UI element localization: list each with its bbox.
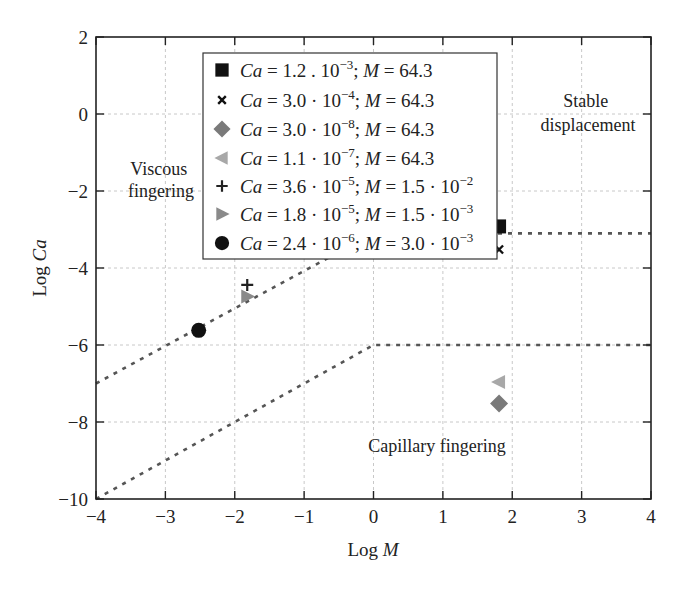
- legend-label: Ca = 3.0 · 10−4; M = 64.3: [240, 87, 434, 111]
- square-marker: [215, 63, 228, 76]
- y-tick-label: 0: [79, 104, 89, 125]
- legend-label: Ca = 1.2 . 10−3; M = 64.3: [240, 57, 433, 81]
- region-label-stable-displacement: Stable displacement: [541, 91, 636, 135]
- y-tick-label: −10: [58, 489, 88, 510]
- region-label-viscous-fingering: Viscous fingering: [128, 159, 194, 201]
- legend-label: Ca = 3.6 · 10−5; M = 1.5 · 10−2: [240, 173, 473, 197]
- scatter-chart: −4−3−2−101234 −10−8−6−4−202 Log M Log Ca…: [0, 0, 684, 591]
- diamond-marker: [490, 395, 508, 413]
- region-label-capillary-fingering: Capillary fingering: [368, 436, 505, 456]
- y-tick-label: −2: [68, 181, 88, 202]
- x-tick-label: 3: [577, 506, 587, 527]
- legend-label: Ca = 2.4 · 10−6; M = 3.0 · 10−3: [240, 230, 473, 254]
- x-tick-label: 2: [508, 506, 518, 527]
- x-tick-label: −2: [225, 506, 245, 527]
- legend-label: Ca = 1.8 · 10−5; M = 1.5 · 10−3: [240, 201, 473, 225]
- circle-marker: [191, 323, 206, 338]
- y-tick-label: −4: [68, 258, 89, 279]
- triangle-left-marker: [491, 375, 505, 389]
- legend-label: Ca = 1.1 · 10−7; M = 64.3: [240, 145, 434, 169]
- legend-label: Ca = 3.0 · 10−8; M = 64.3: [240, 116, 434, 140]
- x-tick-label: 1: [438, 506, 448, 527]
- x-tick-label: 4: [646, 506, 656, 527]
- legend-item: Ca = 1.1 · 10−7; M = 64.3: [214, 145, 434, 169]
- legend: Ca = 1.2 . 10−3; M = 64.3Ca = 3.0 · 10−4…: [203, 53, 497, 259]
- y-tick-labels: −10−8−6−4−202: [58, 27, 88, 510]
- legend-item: Ca = 3.0 · 10−4; M = 64.3: [218, 87, 434, 111]
- y-tick-label: −6: [68, 335, 88, 356]
- y-tick-label: −8: [68, 412, 88, 433]
- x-tick-labels: −4−3−2−101234: [86, 506, 656, 527]
- x-tick-label: −1: [294, 506, 314, 527]
- y-axis-title: Log Ca: [29, 239, 50, 297]
- plus-marker: [241, 279, 253, 291]
- legend-item: Ca = 1.2 . 10−3; M = 64.3: [215, 57, 432, 81]
- x-tick-label: −4: [86, 506, 107, 527]
- x-tick-label: 0: [369, 506, 379, 527]
- y-tick-label: 2: [79, 27, 89, 48]
- x-axis-title: Log M: [347, 539, 399, 560]
- x-tick-label: −3: [155, 506, 175, 527]
- legend-item: Ca = 3.0 · 10−8; M = 64.3: [213, 116, 434, 140]
- circle-marker: [215, 236, 229, 250]
